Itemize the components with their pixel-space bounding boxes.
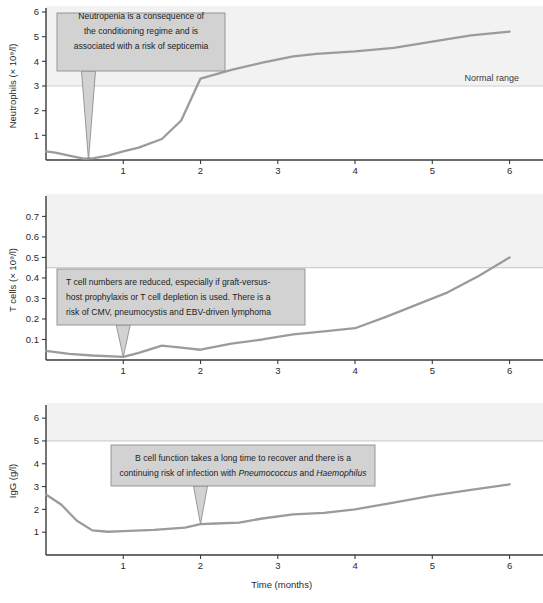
callout-text-line: Neutropenia is a consequence of	[78, 11, 204, 21]
igg-chart-svg: 123456123456IgG (g/l)B cell function tak…	[0, 395, 543, 603]
y-tick-label: 5	[34, 31, 39, 42]
y-tick-label: 0.2	[26, 313, 39, 324]
callout-text-line: continuing risk of infection with Pneumo…	[119, 468, 367, 478]
y-tick-label: 3	[34, 481, 39, 492]
y-tick-label: 5	[34, 435, 39, 446]
x-tick-label: 2	[198, 560, 203, 571]
chart-panel-tcells: 0.10.20.30.40.50.60.7123456T cells (× 10…	[0, 190, 543, 395]
y-axis-title: IgG (g/l)	[7, 464, 18, 498]
y-tick-label: 0.1	[26, 334, 39, 345]
x-tick-label: 3	[275, 165, 280, 176]
callout-text-line: the conditioning regime and is	[84, 26, 198, 36]
x-tick-label: 5	[430, 165, 435, 176]
x-tick-label: 1	[121, 165, 126, 176]
tcells-chart-svg: 0.10.20.30.40.50.60.7123456T cells (× 10…	[0, 190, 543, 395]
y-tick-label: 1	[34, 526, 39, 537]
callout-text-line: B cell function takes a long time to rec…	[135, 453, 351, 463]
chart-panel-neutrophils: Normal range123456123456Neutrophils (× 1…	[0, 0, 543, 190]
y-tick-label: 6	[34, 412, 39, 423]
y-tick-label: 6	[34, 6, 39, 17]
x-tick-label: 6	[507, 365, 512, 376]
normal-range-band	[46, 194, 543, 268]
x-tick-label: 4	[352, 365, 357, 376]
callout-box	[111, 445, 375, 486]
x-tick-label: 2	[198, 165, 203, 176]
x-tick-label: 2	[198, 365, 203, 376]
callout-text-line: associated with a risk of septicemia	[74, 41, 209, 51]
x-tick-label: 4	[352, 560, 357, 571]
x-tick-label: 4	[352, 165, 357, 176]
x-tick-label: 6	[507, 165, 512, 176]
x-tick-label: 5	[430, 560, 435, 571]
callout-text-line: risk of CMV, pneumocystis and EBV-driven…	[66, 307, 271, 317]
x-tick-label: 1	[121, 560, 126, 571]
normal-range-band	[46, 403, 543, 441]
y-tick-label: 0.7	[26, 211, 39, 222]
x-tick-label: 3	[275, 365, 280, 376]
immune-reconstitution-figure: Normal range123456123456Neutrophils (× 1…	[0, 0, 543, 603]
neutrophils-chart-svg: Normal range123456123456Neutrophils (× 1…	[0, 0, 543, 190]
data-series-line	[46, 484, 510, 531]
normal-range-label: Normal range	[464, 73, 519, 83]
y-tick-label: 0.5	[26, 252, 39, 263]
y-tick-label: 0.3	[26, 293, 39, 304]
y-axis-title: T cells (× 10⁹/l)	[7, 248, 18, 312]
callout-pointer	[81, 71, 95, 160]
y-tick-label: 0.6	[26, 231, 39, 242]
chart-panel-igg: 123456123456IgG (g/l)B cell function tak…	[0, 395, 543, 603]
y-tick-label: 3	[34, 80, 39, 91]
y-tick-label: 2	[34, 504, 39, 515]
y-tick-label: 0.4	[26, 272, 39, 283]
x-tick-label: 1	[121, 365, 126, 376]
x-tick-label: 6	[507, 560, 512, 571]
x-tick-label: 5	[430, 365, 435, 376]
y-tick-label: 4	[34, 458, 39, 469]
callout-pointer	[116, 325, 130, 357]
x-tick-label: 3	[275, 560, 280, 571]
y-tick-label: 4	[34, 56, 39, 67]
callout-pointer	[194, 486, 208, 524]
callout-text-line: host prophylaxis or T cell depletion is …	[66, 292, 271, 302]
y-tick-label: 2	[34, 105, 39, 116]
callout-text-line: T cell numbers are reduced, especially i…	[66, 277, 270, 287]
y-tick-label: 1	[34, 130, 39, 141]
y-axis-title: Neutrophils (× 10⁹/l)	[7, 44, 18, 129]
x-axis-title: Time (months)	[251, 579, 312, 590]
